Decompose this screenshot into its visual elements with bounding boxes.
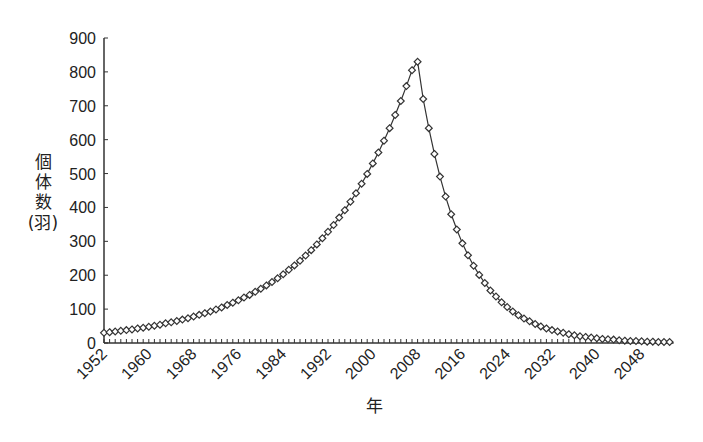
y-tick-label: 100 (69, 301, 96, 318)
data-point-diamond-marker (347, 198, 354, 205)
data-point-diamond-marker (453, 226, 460, 233)
data-point-diamond-marker (369, 160, 376, 167)
y-axis-title-line: 体 (35, 172, 52, 192)
x-tick-label: 1976 (207, 345, 244, 382)
data-point-diamond-marker (353, 190, 360, 197)
y-tick-label: 200 (69, 267, 96, 284)
x-tick-label: 1952 (73, 345, 110, 382)
population-line-chart: 0100200300400500600700800900 19521960196… (0, 0, 703, 442)
x-tick-label: 1992 (297, 345, 334, 382)
x-tick-label: 2000 (342, 345, 379, 382)
y-axis-title-line: 個 (35, 152, 52, 172)
x-tick-label: 2024 (476, 345, 513, 382)
data-point-diamond-marker (420, 96, 427, 103)
y-tick-label: 500 (69, 166, 96, 183)
data-point-diamond-marker (442, 193, 449, 200)
data-point-diamond-marker (476, 271, 483, 278)
x-tick-label: 2048 (611, 345, 648, 382)
y-tick-label: 800 (69, 64, 96, 81)
data-point-diamond-marker (448, 211, 455, 218)
y-tick-label: 900 (69, 30, 96, 47)
y-axis-title-line: 数 (35, 192, 52, 212)
data-point-diamond-marker (414, 58, 421, 65)
y-tick-label: 400 (69, 199, 96, 216)
x-tick-label: 2032 (521, 345, 558, 382)
x-tick-label: 1984 (252, 345, 289, 382)
data-point-diamond-marker (425, 125, 432, 132)
data-point-diamond-marker (375, 149, 382, 156)
x-tick-label: 1968 (163, 345, 200, 382)
data-point-diamond-marker (386, 125, 393, 132)
y-tick-label: 300 (69, 233, 96, 250)
data-point-diamond-marker (364, 170, 371, 177)
data-point-diamond-marker (392, 112, 399, 119)
data-point-diamond-marker (409, 67, 416, 74)
x-tick-label: 2040 (566, 345, 603, 382)
series-line (104, 62, 670, 342)
data-point-diamond-marker (358, 180, 365, 187)
data-point-diamond-marker (470, 262, 477, 269)
data-point-diamond-marker (465, 252, 472, 259)
data-series (101, 58, 673, 345)
x-axis: 1952196019681976198419922000200820162024… (73, 339, 674, 382)
data-point-diamond-marker (459, 240, 466, 247)
x-tick-label: 2016 (431, 345, 468, 382)
data-point-diamond-marker (437, 173, 444, 180)
data-point-diamond-marker (666, 339, 673, 346)
data-point-diamond-marker (431, 151, 438, 158)
y-tick-label: 700 (69, 98, 96, 115)
y-tick-label: 600 (69, 132, 96, 149)
x-tick-label: 1960 (118, 345, 155, 382)
x-axis-title: 年 (366, 396, 383, 416)
y-axis-title: 個体数(羽) (28, 152, 58, 233)
x-tick-label: 2008 (387, 345, 424, 382)
data-point-diamond-marker (381, 137, 388, 144)
y-axis-title-line: (羽) (28, 213, 58, 233)
data-point-diamond-marker (397, 98, 404, 105)
data-point-diamond-marker (403, 83, 410, 90)
y-axis: 0100200300400500600700800900 (69, 30, 108, 352)
